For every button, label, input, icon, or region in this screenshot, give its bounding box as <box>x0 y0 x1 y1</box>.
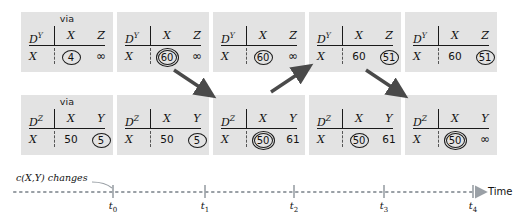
dv-table: DY X Z X 4 ∞ <box>29 26 105 66</box>
cell-value-1: 50 <box>57 130 85 149</box>
table-data-row: X 50 5 <box>29 130 105 149</box>
column-header-1: X <box>57 26 85 45</box>
tick-label-t2: t2 <box>284 200 304 214</box>
table-header-row: DY X Z <box>29 26 105 45</box>
table-card-dy-t0: via DY X Z X 4 ∞ <box>21 12 113 72</box>
table-header-row: DY X Z <box>125 26 201 45</box>
header-rule <box>413 45 489 46</box>
table-card-dz-t3: via DZ X Y X 50 61 <box>309 95 401 155</box>
row-label: X <box>29 47 55 66</box>
row-label: X <box>317 130 343 149</box>
via-label: via <box>21 96 113 107</box>
cell-value-1: 50 <box>345 130 373 149</box>
cell-value-1: 60 <box>441 47 469 66</box>
table-card-dz-t2: via DZ X Y X 50 61 <box>213 95 305 155</box>
table-card-dy-t4: via DY X Z X 60 51 <box>405 12 497 72</box>
dv-table: DY X Z X 60 ∞ <box>125 26 201 66</box>
row-label: X <box>317 47 343 66</box>
arrow-t1-down <box>174 70 207 92</box>
column-header-1: X <box>249 109 277 128</box>
column-header-1: X <box>153 109 181 128</box>
cost-change-annotation: c(X,Y) changes <box>16 172 88 183</box>
column-header-2: Z <box>279 26 307 45</box>
column-header-2: Y <box>279 109 307 128</box>
header-rule <box>413 128 489 129</box>
table-data-row: X 60 51 <box>317 47 393 66</box>
tick-label-t3: t3 <box>374 200 394 214</box>
table-card-dz-t0: via DZ X Y X 50 5 <box>21 95 113 155</box>
tick-label-t1: t1 <box>195 200 215 214</box>
row-divider <box>342 131 343 147</box>
header-divider <box>438 109 439 128</box>
row-label: X <box>125 130 151 149</box>
cell-value-2: 5 <box>183 130 211 149</box>
table-data-row: X 50 61 <box>221 130 297 149</box>
cell-value-2: 51 <box>471 47 499 66</box>
table-data-row: X 50 5 <box>125 130 201 149</box>
header-rule <box>125 128 201 129</box>
table-card-dz-t4: via DZ X Y X 50 ∞ <box>405 95 497 155</box>
table-data-row: X 60 51 <box>413 47 489 66</box>
dv-table: DZ X Y X 50 5 <box>125 109 201 149</box>
header-rule <box>29 45 105 46</box>
table-header-row: DY X Z <box>317 26 393 45</box>
row-label: X <box>413 130 439 149</box>
column-header-1: X <box>345 26 373 45</box>
cell-value-1: 60 <box>153 47 181 67</box>
column-header-1: X <box>57 109 85 128</box>
row-divider <box>246 131 247 147</box>
arrow-t2-up <box>271 70 304 92</box>
cell-value-1: 50 <box>441 130 469 150</box>
row-label: X <box>29 130 55 149</box>
row-divider <box>438 131 439 147</box>
table-header-row: DZ X Y <box>317 109 393 128</box>
dv-table: DZ X Y X 50 61 <box>221 109 297 149</box>
cell-value-2: 61 <box>375 130 403 149</box>
table-header-row: DZ X Y <box>29 109 105 128</box>
header-divider <box>246 109 247 128</box>
header-rule <box>317 45 393 46</box>
diagram-canvas: via DY X Z X 4 ∞ via DY X Z <box>0 0 532 222</box>
column-header-2: Y <box>87 109 115 128</box>
table-card-dy-t2: via DY X Z X 60 ∞ <box>213 12 305 72</box>
table-header-row: DZ X Y <box>413 109 489 128</box>
cell-value-2: ∞ <box>183 47 211 66</box>
column-header-1: X <box>249 26 277 45</box>
row-divider <box>438 48 439 64</box>
header-divider <box>150 109 151 128</box>
column-header-2: Y <box>375 109 403 128</box>
header-rule <box>221 128 297 129</box>
table-data-row: X 4 ∞ <box>29 47 105 66</box>
column-header-1: X <box>345 109 373 128</box>
row-label: X <box>413 47 439 66</box>
column-header-1: X <box>441 109 469 128</box>
table-header-row: DY X Z <box>413 26 489 45</box>
column-header-2: Z <box>471 26 499 45</box>
column-header-2: Z <box>375 26 403 45</box>
table-card-dy-t1: via DY X Z X 60 ∞ <box>117 12 209 72</box>
header-divider <box>438 26 439 45</box>
cell-value-1: 50 <box>249 130 277 150</box>
cell-value-1: 60 <box>345 47 373 66</box>
row-label: X <box>221 47 247 66</box>
dv-table: DY X Z X 60 ∞ <box>221 26 297 66</box>
table-card-dy-t3: via DY X Z X 60 51 <box>309 12 401 72</box>
row-divider <box>54 131 55 147</box>
cell-value-2: 61 <box>279 130 307 149</box>
row-divider <box>150 48 151 64</box>
cell-value-1: 60 <box>249 47 277 66</box>
header-divider <box>54 109 55 128</box>
tick-label-t4: t4 <box>463 200 483 214</box>
cell-value-2: ∞ <box>279 47 307 66</box>
row-divider <box>150 131 151 147</box>
table-data-row: X 60 ∞ <box>221 47 297 66</box>
cell-value-1: 50 <box>153 130 181 149</box>
annotation-leader-line <box>92 182 112 188</box>
table-header-row: DZ X Y <box>221 109 297 128</box>
column-header-2: Y <box>471 109 499 128</box>
header-rule <box>125 45 201 46</box>
cell-value-2: 51 <box>375 47 403 66</box>
row-divider <box>342 48 343 64</box>
cell-value-1: 4 <box>57 47 85 66</box>
column-header-1: X <box>441 26 469 45</box>
